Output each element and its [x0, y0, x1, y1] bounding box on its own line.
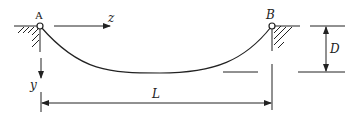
label-b: B — [265, 8, 275, 22]
pin-a-icon — [37, 23, 43, 29]
label-l: L — [151, 87, 160, 101]
support-b-hatch — [272, 26, 300, 51]
label-z: z — [107, 11, 115, 25]
label-y: y — [29, 78, 37, 92]
label-d: D — [329, 42, 340, 56]
support-a-hatch — [14, 26, 40, 52]
label-a: A — [35, 9, 43, 21]
cable-curve — [41, 27, 271, 73]
cable-diagram: A B z y L D — [0, 0, 353, 119]
pin-b-icon — [269, 23, 275, 29]
